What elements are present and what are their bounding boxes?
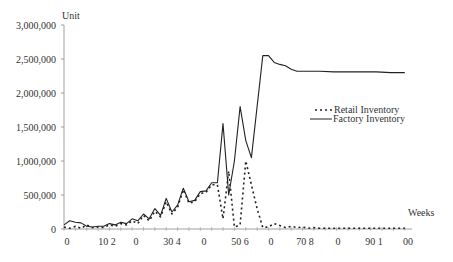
series-layer <box>64 56 405 229</box>
y-tick-label: 3,000,000 <box>16 20 56 31</box>
y-tick-label: 1,500,000 <box>16 122 56 133</box>
y-axis: 0500,0001,000,0001,500,0002,000,0002,500… <box>16 20 64 235</box>
x-tick-label: 10 2 <box>98 236 116 247</box>
x-tick-label: 50 6 <box>231 236 249 247</box>
legend: Retail Inventory Factory Inventory <box>310 104 405 124</box>
x-tick-label: 70 8 <box>296 236 314 247</box>
factory-inventory-line <box>64 56 405 227</box>
y-axis-title: Unit <box>62 10 80 21</box>
x-tick-label: 30 4 <box>163 236 181 247</box>
y-tick-label: 500,000 <box>24 190 57 201</box>
x-tick-label: 0 <box>269 236 274 247</box>
y-tick-label: 1,000,000 <box>16 156 56 167</box>
y-tick-label: 2,000,000 <box>16 88 56 99</box>
x-axis: 010 2030 4050 6070 8090 100 <box>64 227 413 247</box>
inventory-line-chart: 0500,0001,000,0001,500,0002,000,0002,500… <box>0 0 453 262</box>
x-tick-label: 0 <box>336 236 341 247</box>
retail-inventory-line <box>64 161 405 228</box>
legend-factory-label: Factory Inventory <box>333 113 405 124</box>
y-tick-label: 0 <box>51 224 56 235</box>
x-tick-label: 90 1 <box>365 236 383 247</box>
x-tick-label: 0 <box>202 236 207 247</box>
x-tick-label: 00 <box>403 236 413 247</box>
x-axis-title: Weeks <box>408 207 435 218</box>
x-tick-label: 0 <box>65 236 70 247</box>
y-tick-label: 2,500,000 <box>16 54 56 65</box>
x-tick-label: 0 <box>134 236 139 247</box>
